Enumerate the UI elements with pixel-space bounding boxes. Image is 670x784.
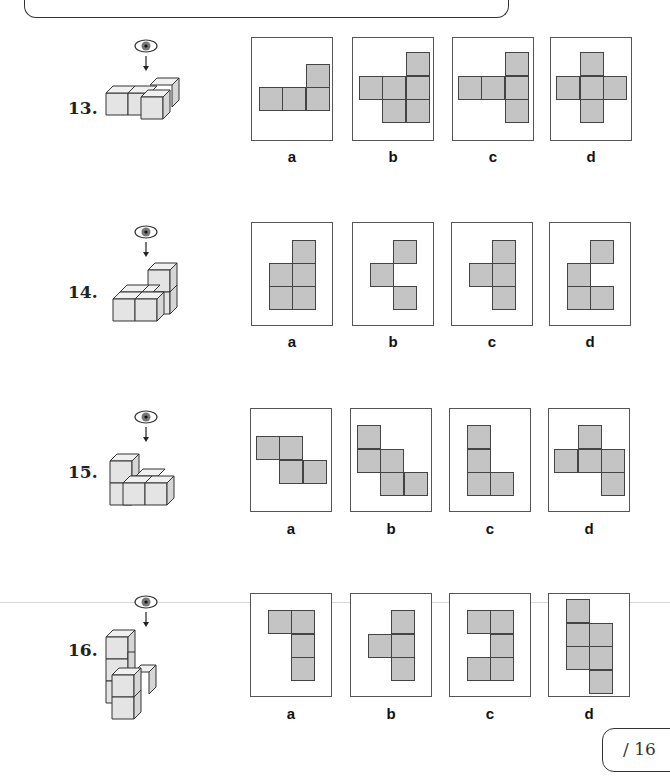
net-square (279, 436, 303, 460)
score-total: / 16 (623, 739, 656, 759)
net-square (590, 286, 614, 310)
net-square (359, 76, 383, 100)
eye-icon (135, 226, 157, 238)
net-square (268, 610, 292, 634)
net-square (556, 76, 580, 100)
net-square (291, 657, 315, 681)
eye-icon (135, 40, 157, 52)
option-16d[interactable] (548, 593, 630, 697)
option-16a[interactable] (250, 593, 332, 697)
net-square (382, 99, 406, 123)
option-13c[interactable] (452, 37, 534, 141)
net-square (269, 286, 293, 310)
question-number: 13. (68, 98, 98, 118)
net-square (391, 657, 415, 681)
option-14d[interactable] (549, 222, 631, 326)
net-square (578, 449, 602, 473)
net-square (490, 610, 514, 634)
arrow-down-icon (143, 427, 149, 442)
net-square (382, 76, 406, 100)
option-13b[interactable] (352, 37, 434, 141)
net-square (603, 76, 627, 100)
option-16b[interactable] (350, 593, 432, 697)
option-label: c (451, 333, 533, 350)
net-square (590, 240, 614, 264)
net-square (469, 263, 493, 287)
option-label: c (452, 148, 534, 165)
net-square (282, 87, 306, 111)
net-square (292, 240, 316, 264)
option-label: b (352, 333, 434, 350)
option-label: b (350, 705, 432, 722)
net-square (505, 52, 529, 76)
net-square (393, 240, 417, 264)
option-15d[interactable] (548, 408, 630, 512)
option-label: c (449, 520, 531, 537)
net-square (380, 449, 404, 473)
net-square (368, 634, 392, 658)
net-square (404, 472, 428, 496)
net-square (269, 263, 293, 287)
net-square (391, 634, 415, 658)
cube-figure-13 (100, 38, 190, 128)
net-square (589, 646, 613, 670)
net-square (467, 472, 491, 496)
net-square (357, 449, 381, 473)
question-number: 16. (68, 640, 98, 660)
net-square (566, 623, 590, 647)
option-14c[interactable] (451, 222, 533, 326)
net-square (291, 634, 315, 658)
option-14b[interactable] (352, 222, 434, 326)
question-number: 15. (68, 462, 98, 482)
net-square (292, 286, 316, 310)
net-square (566, 646, 590, 670)
question-number: 14. (68, 282, 98, 302)
net-square (406, 52, 430, 76)
option-label: b (350, 520, 432, 537)
option-label: a (251, 148, 333, 165)
net-square (490, 634, 514, 658)
net-square (601, 449, 625, 473)
net-square (370, 263, 394, 287)
net-square (566, 599, 590, 623)
net-square (256, 436, 280, 460)
cube-figure-15 (100, 405, 190, 515)
net-square (467, 657, 491, 681)
net-square (406, 99, 430, 123)
option-label: d (548, 705, 630, 722)
net-square (589, 670, 613, 694)
option-label: d (548, 520, 630, 537)
net-square (380, 472, 404, 496)
option-14a[interactable] (251, 222, 333, 326)
arrow-down-icon (143, 242, 149, 257)
option-13d[interactable] (550, 37, 632, 141)
net-square (580, 76, 604, 100)
net-square (357, 425, 381, 449)
option-15a[interactable] (250, 408, 332, 512)
option-13a[interactable] (251, 37, 333, 141)
net-square (492, 263, 516, 287)
net-square (567, 263, 591, 287)
net-square (490, 472, 514, 496)
net-square (580, 52, 604, 76)
cube-figure-14 (100, 222, 190, 337)
score-box: / 16 (602, 728, 670, 772)
net-square (580, 99, 604, 123)
net-square (467, 425, 491, 449)
net-square (306, 87, 330, 111)
net-square (306, 64, 330, 88)
option-label: d (550, 148, 632, 165)
option-16c[interactable] (449, 593, 531, 697)
net-square (393, 286, 417, 310)
net-square (567, 286, 591, 310)
option-label: a (250, 520, 332, 537)
option-15c[interactable] (449, 408, 531, 512)
net-square (279, 460, 303, 484)
net-square (303, 460, 327, 484)
net-square (406, 76, 430, 100)
option-15b[interactable] (350, 408, 432, 512)
option-label: c (449, 705, 531, 722)
net-square (259, 87, 283, 111)
net-square (505, 99, 529, 123)
cube-figure-16 (100, 590, 190, 730)
